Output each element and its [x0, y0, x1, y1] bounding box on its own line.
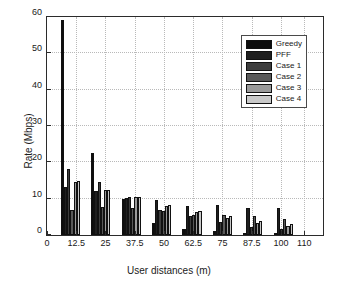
legend-swatch	[246, 40, 272, 49]
bar	[138, 197, 141, 235]
legend-swatch	[246, 84, 272, 93]
legend-label: Case 4	[276, 95, 301, 103]
x-tick-label: 50	[159, 239, 169, 248]
x-tick-mark	[105, 231, 106, 235]
y-tick-label: 30	[32, 117, 42, 126]
x-tick-mark	[135, 231, 136, 235]
legend-item[interactable]: Case 4	[246, 94, 302, 104]
legend-label: Case 1	[276, 62, 301, 70]
x-tick-mark	[304, 231, 305, 235]
y-tick-label: 40	[32, 80, 42, 89]
x-tick-label: 12.5	[67, 239, 85, 248]
figure-bar-chart: Rate (Mbps) 0102030405060 012.52537.5506…	[0, 0, 338, 282]
bar	[259, 221, 262, 235]
legend-swatch	[246, 51, 272, 60]
bar	[229, 216, 232, 235]
y-tick-label: 10	[32, 189, 42, 198]
y-tick-mark	[47, 89, 51, 90]
bar	[168, 205, 171, 235]
legend-label: PFF	[276, 51, 291, 59]
x-tick-label: 62.5	[184, 239, 202, 248]
legend-swatch	[246, 73, 272, 82]
y-tick-label: 50	[32, 44, 42, 53]
bar	[198, 211, 201, 235]
x-tick-mark	[193, 231, 194, 235]
legend-item[interactable]: PFF	[246, 50, 302, 60]
x-tick-label: 0	[44, 239, 49, 248]
legend: GreedyPFFCase 1Case 2Case 3Case 4	[241, 35, 307, 108]
legend-label: Case 2	[276, 73, 301, 81]
legend-item[interactable]: Case 2	[246, 72, 302, 82]
x-tick-mark	[281, 231, 282, 235]
legend-item[interactable]: Case 3	[246, 83, 302, 93]
y-tick-label: 0	[37, 226, 42, 235]
x-tick-mark	[222, 231, 223, 235]
legend-item[interactable]: Greedy	[246, 39, 302, 49]
x-tick-mark	[47, 231, 48, 235]
x-axis-title: User distances (m)	[0, 265, 338, 276]
bar	[77, 181, 80, 235]
bar	[290, 224, 293, 235]
x-tick-label: 75	[217, 239, 227, 248]
y-tick-mark	[47, 16, 51, 17]
x-tick-mark	[252, 231, 253, 235]
y-tick-label: 60	[32, 8, 42, 17]
legend-swatch	[246, 95, 272, 104]
x-tick-label: 87.5	[243, 239, 261, 248]
bar	[107, 190, 110, 235]
legend-label: Greedy	[276, 40, 302, 48]
y-tick-mark	[47, 198, 51, 199]
y-tick-mark	[47, 161, 51, 162]
plot-area: 0102030405060 012.52537.55062.57587.5100…	[46, 16, 324, 236]
y-tick-mark	[47, 125, 51, 126]
x-tick-label: 100	[273, 239, 288, 248]
x-tick-label: 110	[297, 239, 311, 248]
legend-swatch	[246, 62, 272, 71]
x-tick-mark	[164, 231, 165, 235]
x-tick-label: 25	[100, 239, 110, 248]
legend-item[interactable]: Case 1	[246, 61, 302, 71]
x-tick-label: 37.5	[126, 239, 144, 248]
y-tick-mark	[47, 52, 51, 53]
legend-label: Case 3	[276, 84, 301, 92]
y-tick-label: 20	[32, 153, 42, 162]
x-tick-mark	[76, 231, 77, 235]
